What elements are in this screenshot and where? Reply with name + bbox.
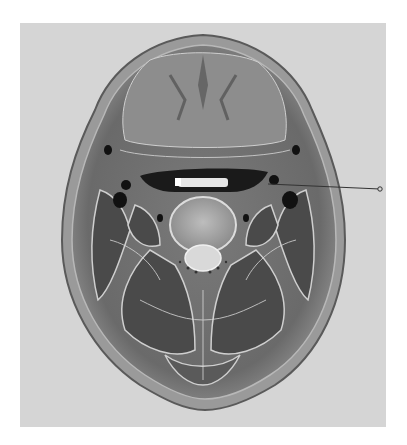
left-jugular bbox=[113, 192, 127, 208]
neck-cross-section bbox=[0, 0, 407, 445]
right-jugular bbox=[282, 191, 298, 209]
spinal-cord bbox=[185, 245, 221, 271]
leader-line-end-marker bbox=[378, 187, 382, 191]
